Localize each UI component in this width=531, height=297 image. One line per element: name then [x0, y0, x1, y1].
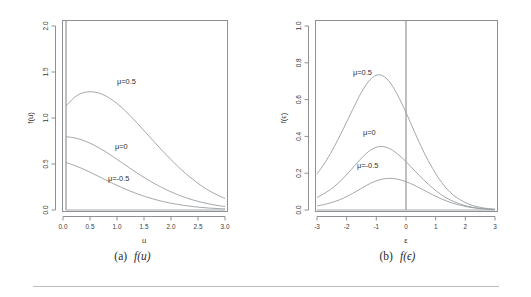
- curve-label-mu-neg-0-5: μ=-0.5: [108, 174, 129, 183]
- curve-label-mu-0-5: μ=0.5: [117, 77, 136, 86]
- x-tick-label: -3: [314, 223, 320, 230]
- x-tick-label: 0.5: [86, 223, 95, 230]
- caption-a-math: f(u): [127, 250, 151, 262]
- y-tick-label: 1.0: [295, 21, 302, 30]
- y-tick-label: 0.2: [295, 168, 302, 177]
- curve--0-5: [66, 92, 225, 199]
- panel-b: 0.0 0.2 0.4 0.6 0.8 1.0 f(ϵ) -3 -2: [265, 0, 530, 285]
- plot-b-y-axis-title: f(ϵ): [279, 112, 288, 123]
- x-tick-label: 2.0: [167, 223, 176, 230]
- x-tick-label: 0.0: [59, 223, 68, 230]
- y-tick-label: 0.0: [42, 205, 49, 214]
- panel-a: 0.0 0.5 1.0 1.5 2.0 f(u) 0.0 0.5: [0, 0, 265, 285]
- curve-label-mu-0-5: μ=0.5: [353, 68, 372, 77]
- plot-b-x-ticks: [317, 217, 495, 221]
- y-tick-label: 2.0: [42, 21, 49, 30]
- plot-a-x-axis-title: u: [142, 236, 146, 245]
- horizontal-rule: [33, 286, 499, 287]
- curve-label-mu-0: μ=0: [115, 142, 128, 151]
- plot-b-y-ticks: [305, 26, 309, 210]
- caption-a: (a)f(u): [0, 250, 265, 262]
- caption-a-label: (a): [114, 250, 127, 262]
- curve-label-mu-neg-0-5: μ=-0.5: [357, 161, 378, 170]
- plot-b-x-axis-title: ε: [404, 236, 408, 245]
- caption-b-label: (b): [380, 250, 393, 262]
- x-tick-label: 3.0: [221, 223, 230, 230]
- caption-b-math: f(ϵ): [393, 250, 416, 262]
- x-tick-label: -1: [373, 223, 379, 230]
- plot-b-frame: [316, 21, 498, 212]
- y-tick-label: 0.0: [295, 205, 302, 214]
- x-tick-label: 2.5: [194, 223, 203, 230]
- plot-b-curve-labels: μ=0.5 μ=0 μ=-0.5: [353, 68, 378, 170]
- caption-b: (b)f(ϵ): [265, 250, 530, 262]
- plot-b-svg: 0.0 0.2 0.4 0.6 0.8 1.0 f(ϵ) -3 -2: [265, 0, 530, 250]
- y-tick-label: 1.5: [42, 67, 49, 76]
- x-tick-label: 3: [493, 223, 497, 230]
- plot-a-x-ticks: [63, 217, 225, 221]
- plot-a-x-ticklabels: 0.0 0.5 1.0 1.5 2.0 2.5 3.0: [59, 223, 230, 230]
- figure-container: 0.0 0.5 1.0 1.5 2.0 f(u) 0.0 0.5: [0, 0, 531, 297]
- plot-a-frame: [63, 21, 228, 212]
- x-tick-label: 1.5: [140, 223, 149, 230]
- plot-a-curve-labels: μ=0.5 μ=0 μ=-0.5: [108, 77, 136, 183]
- plot-a-curves: [66, 92, 225, 209]
- plot-a-y-ticks: [52, 26, 56, 210]
- y-tick-label: 0.5: [42, 159, 49, 168]
- curve-label-mu-0: μ=0: [363, 128, 376, 137]
- plot-a-y-ticklabels: 0.0 0.5 1.0 1.5 2.0: [42, 21, 49, 214]
- plot-a-y-axis-title: f(u): [26, 112, 35, 124]
- y-tick-label: 0.6: [295, 95, 302, 104]
- x-tick-label: 2: [464, 223, 468, 230]
- x-tick-label: 1: [434, 223, 438, 230]
- plot-b-y-ticklabels: 0.0 0.2 0.4 0.6 0.8 1.0: [295, 21, 302, 214]
- x-tick-label: -2: [344, 223, 350, 230]
- plot-a-svg: 0.0 0.5 1.0 1.5 2.0 f(u) 0.0 0.5: [0, 0, 265, 250]
- curve--0: [66, 137, 225, 207]
- plot-b-x-ticklabels: -3 -2 -1 0 1 2 3: [314, 223, 497, 230]
- x-tick-label: 1.0: [113, 223, 122, 230]
- y-tick-label: 1.0: [42, 113, 49, 122]
- y-tick-label: 0.8: [295, 58, 302, 67]
- x-tick-label: 0: [404, 223, 408, 230]
- y-tick-label: 0.4: [295, 132, 302, 141]
